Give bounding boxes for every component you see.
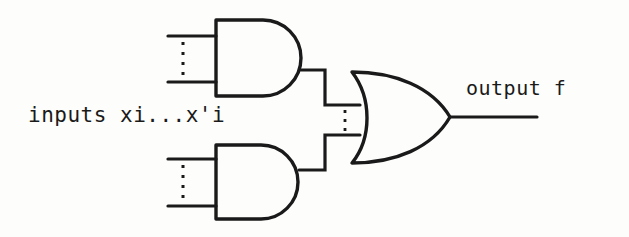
and-gate-top [216,20,301,96]
inputs-label: inputs xi...x'i [28,103,225,127]
wire-and-top-to-or [301,70,360,105]
wire-and-bottom-to-or [299,135,360,170]
or-gate [352,72,450,163]
or-gate-body [352,72,450,163]
output-label: output f [466,76,566,100]
and-gate-bottom-body [216,145,298,219]
and-gate-top-body [216,20,301,96]
and-gate-bottom [216,145,298,219]
logic-circuit-figure: inputs xi...x'i output f [0,0,629,237]
